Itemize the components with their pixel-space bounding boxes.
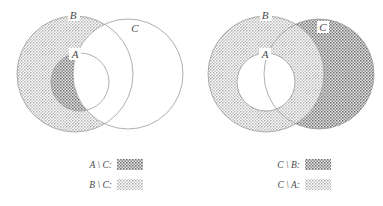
legend-swatch-b-minus-c <box>117 179 143 190</box>
left-label-a-text: A <box>71 48 79 60</box>
right-label-c-text: C <box>319 21 327 33</box>
legend-item-c-minus-b: C \ B: <box>277 159 331 170</box>
legend-item-a-minus-c-label: A \ C: <box>88 160 112 170</box>
right-label-b-text: B <box>262 9 269 21</box>
left-label-b: B <box>68 9 80 21</box>
left-label-b-text: B <box>70 9 77 21</box>
legend-item-c-minus-a-label: C \ A: <box>277 180 300 190</box>
right-label-b: B <box>260 9 272 21</box>
left-legend: A \ C: B \ C: <box>88 159 143 190</box>
legend-item-b-minus-c-label: B \ C: <box>89 180 112 190</box>
legend-swatch-a-minus-c <box>117 159 143 170</box>
right-label-c: C <box>317 21 329 33</box>
right-label-a: A <box>259 48 271 60</box>
region-c-minus-b-fill <box>190 0 383 145</box>
left-venn-diagram: B A C <box>0 0 200 145</box>
legend-item-b-minus-c: B \ C: <box>89 179 143 190</box>
right-legend: C \ B: C \ A: <box>277 159 331 190</box>
left-label-a: A <box>69 48 81 60</box>
legend-swatch-c-minus-a <box>305 179 331 190</box>
legend-item-a-minus-c: A \ C: <box>88 159 143 170</box>
region-c-minus-b <box>190 0 383 145</box>
left-label-c-text: C <box>131 22 139 34</box>
left-label-c: C <box>129 22 141 34</box>
venn-figure-root: B A C <box>0 0 383 206</box>
right-venn-diagram: B A C <box>190 0 383 145</box>
legend-item-c-minus-a: C \ A: <box>277 179 331 190</box>
right-label-a-text: A <box>261 48 269 60</box>
legend-swatch-c-minus-b <box>305 159 331 170</box>
venn-diagram-canvas: B A C <box>0 0 383 206</box>
left-set-c-white-fill <box>73 19 183 129</box>
legend-item-c-minus-b-label: C \ B: <box>277 160 300 170</box>
